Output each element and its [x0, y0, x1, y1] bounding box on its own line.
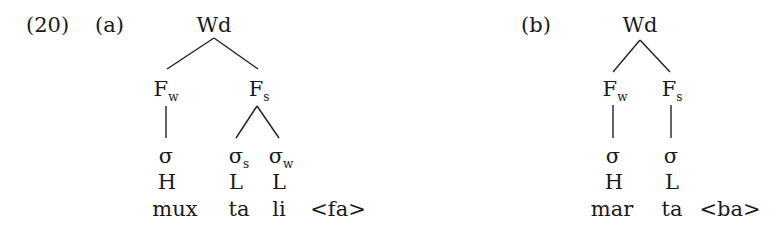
branch-fs-sigmas-a — [236, 106, 257, 138]
tree-b-syllable-1: σ — [606, 144, 620, 168]
tree-a-syllable-3: σw — [269, 144, 294, 168]
tree-a-extrametrical: <fa> — [310, 197, 365, 221]
branch-fs-sigmaw-a — [257, 106, 279, 138]
tree-a-segment-1: mux — [152, 197, 197, 221]
branch-wd-fw-a — [167, 38, 214, 69]
tree-a-weight-3: L — [272, 170, 286, 194]
tree-b-foot-weak: Fw — [603, 77, 628, 101]
tree-b-syllable-2: σ — [664, 144, 678, 168]
tree-a-weight-2: L — [229, 170, 243, 194]
branch-wd-fs-a — [214, 38, 258, 69]
tree-a-label: (a) — [95, 13, 124, 37]
tree-b-extrametrical: <ba> — [699, 197, 760, 221]
branch-wd-fw-b — [613, 40, 640, 72]
tree-b-segment-2: ta — [662, 197, 683, 221]
tree-a-segment-2: ta — [229, 197, 250, 221]
tree-b-label: (b) — [521, 13, 551, 37]
tree-a-foot-strong: Fs — [249, 77, 270, 101]
tree-a-weight-1: H — [158, 170, 176, 194]
tree-b-root: Wd — [622, 13, 657, 37]
tree-a-foot-weak: Fw — [154, 77, 179, 101]
tree-a-root: Wd — [196, 13, 231, 37]
tree-b-weight-1: H — [605, 170, 623, 194]
tree-a-segment-3: li — [272, 197, 285, 221]
example-number: (20) — [26, 13, 69, 37]
tree-a-syllable-1: σ — [159, 144, 173, 168]
tree-a-syllable-2: σs — [229, 144, 250, 168]
branch-wd-fs-b — [640, 40, 670, 72]
tree-b-weight-2: L — [665, 170, 679, 194]
tree-b-foot-strong: Fs — [662, 77, 683, 101]
tree-b-segment-1: mar — [591, 197, 633, 221]
